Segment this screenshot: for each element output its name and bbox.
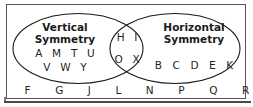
horizontal-symmetry-label-line-2: Symmetry	[164, 33, 224, 45]
horizontal-symmetry-label: Horizontal Symmetry	[146, 22, 242, 45]
vertical-symmetry-label: Vertical Symmetry	[22, 22, 108, 45]
outside-members-row: F G J L N P Q R S Z	[14, 84, 238, 96]
intersection-members-row-1: H I	[108, 31, 146, 43]
vertical-symmetry-label-line-1: Vertical	[42, 21, 87, 33]
scan-edge-shadow-bottom	[4, 101, 251, 103]
vertical-symmetry-members-row-2: V W Y	[22, 61, 108, 73]
horizontal-symmetry-members-row-1: B C D E K	[146, 59, 242, 71]
venn-diagram-figure: Vertical Symmetry Horizontal Symmetry A …	[0, 0, 253, 107]
horizontal-symmetry-label-line-1: Horizontal	[163, 21, 224, 33]
intersection-members-row-2: O X	[108, 53, 146, 65]
vertical-symmetry-members-row-1: A M T U	[22, 47, 108, 59]
vertical-symmetry-label-line-2: Symmetry	[35, 33, 95, 45]
